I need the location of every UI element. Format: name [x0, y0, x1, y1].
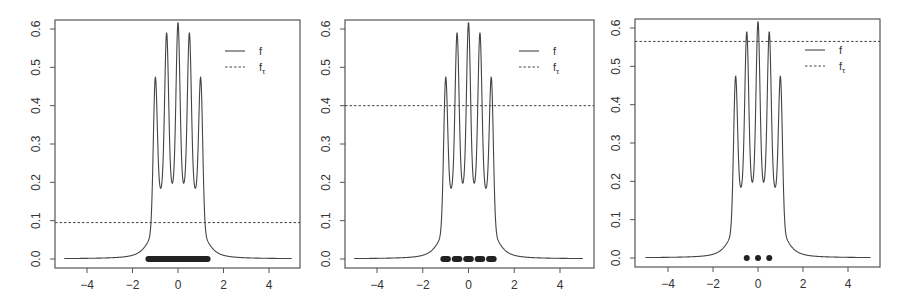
level-set-point	[744, 255, 750, 261]
x-tick-label: −2	[126, 278, 140, 292]
legend-label-f: f	[553, 45, 557, 57]
y-tick-label: 0.2	[319, 174, 333, 191]
x-tick-label: 2	[511, 278, 518, 292]
y-tick-label: 0.0	[609, 249, 623, 266]
y-tick-label: 0.3	[319, 135, 333, 152]
chart-panel-1: 0.00.10.20.30.40.50.6−4−2024ffτ	[29, 20, 300, 292]
legend-tau-subscript: τ	[556, 67, 560, 76]
plot-frame	[635, 19, 880, 267]
x-tick-label: −2	[416, 278, 430, 292]
y-tick-label: 0.0	[319, 250, 333, 267]
y-tick-label: 0.2	[29, 174, 43, 191]
density-curve-f	[64, 22, 292, 258]
y-tick-label: 0.6	[29, 20, 43, 37]
x-tick-label: 4	[557, 278, 564, 292]
x-tick-label: 2	[220, 278, 227, 292]
x-tick-label: 0	[175, 278, 182, 292]
y-axis: 0.00.10.20.30.40.50.6	[609, 19, 635, 266]
legend-label-f-tau: fτ	[553, 61, 560, 76]
legend: ffτ	[519, 45, 560, 76]
y-axis: 0.00.10.20.30.40.50.6	[29, 20, 55, 267]
level-set-point	[766, 255, 772, 261]
density-curve-f	[646, 21, 871, 257]
y-tick-label: 0.4	[609, 96, 623, 113]
x-tick-label: 0	[755, 277, 762, 291]
x-tick-label: 2	[800, 277, 807, 291]
x-tick-label: 4	[266, 278, 273, 292]
y-tick-label: 0.2	[609, 173, 623, 190]
y-tick-label: 0.4	[29, 97, 43, 114]
legend-label-f: f	[839, 44, 843, 56]
y-tick-label: 0.1	[609, 211, 623, 228]
x-tick-label: −4	[80, 278, 94, 292]
y-tick-label: 0.5	[319, 59, 333, 76]
x-tick-label: −2	[706, 277, 720, 291]
x-tick-label: 0	[465, 278, 472, 292]
chart-panel-2: 0.00.10.20.30.40.50.6−4−2024ffτ	[319, 20, 594, 292]
x-tick-label: 4	[845, 277, 852, 291]
y-tick-label: 0.5	[29, 59, 43, 76]
x-tick-label: −4	[661, 277, 675, 291]
level-set-markers	[744, 255, 773, 261]
legend-label-f: f	[259, 45, 263, 57]
legend-label-f-tau: fτ	[839, 60, 846, 75]
x-tick-label: −4	[370, 278, 384, 292]
x-axis: −4−2024	[661, 267, 852, 291]
legend-tau-subscript: τ	[842, 66, 846, 75]
legend: ffτ	[805, 44, 846, 75]
y-tick-label: 0.1	[319, 212, 333, 229]
legend: ffτ	[225, 45, 266, 76]
y-tick-label: 0.3	[29, 135, 43, 152]
figure: 0.00.10.20.30.40.50.6−4−2024ffτ0.00.10.2…	[0, 0, 907, 304]
y-tick-label: 0.6	[609, 19, 623, 36]
y-tick-label: 0.6	[319, 20, 333, 37]
y-tick-label: 0.4	[319, 97, 333, 114]
level-set-point	[755, 255, 761, 261]
y-tick-label: 0.3	[609, 134, 623, 151]
y-axis: 0.00.10.20.30.40.50.6	[319, 20, 345, 267]
x-axis: −4−2024	[80, 268, 273, 292]
y-tick-label: 0.0	[29, 250, 43, 267]
y-tick-label: 0.1	[29, 212, 43, 229]
x-axis: −4−2024	[370, 268, 564, 292]
legend-label-f-tau: fτ	[259, 61, 266, 76]
legend-tau-subscript: τ	[262, 67, 266, 76]
plot-frame	[55, 20, 300, 268]
chart-panel-3: 0.00.10.20.30.40.50.6−4−2024ffτ	[609, 19, 880, 291]
density-curve-f	[354, 22, 583, 258]
y-tick-label: 0.5	[609, 58, 623, 75]
